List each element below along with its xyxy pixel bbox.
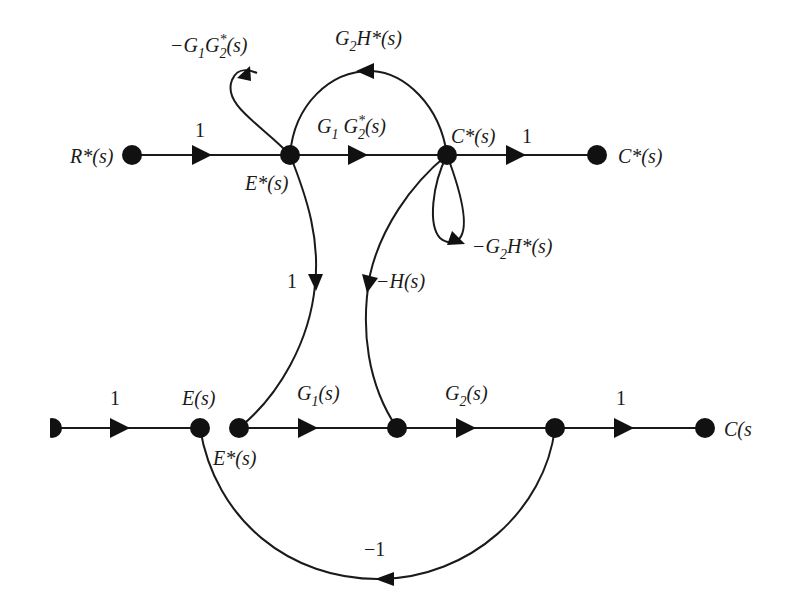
node-c-star-out [587,145,607,165]
arrow-icon [237,66,251,81]
gain-e-star-to-c-star: G1 G2*(s) [317,113,386,142]
node-n1 [387,418,407,438]
arrow-icon [456,418,476,438]
arrow-icon [356,63,374,79]
arrow-icon [298,418,318,438]
edge-c-star-to-e-star-arc [290,71,447,155]
label-e-star-bot: E*(s) [212,447,257,470]
arrow-icon [110,418,130,438]
label-c-out: C(s [724,418,752,441]
gain-r-to-e-star: 1 [195,119,205,141]
gain-input-to-e: 1 [110,387,120,409]
label-e-star-top: E*(s) [244,172,289,195]
arrow-icon [614,418,634,438]
arrow-icon [506,145,526,165]
node-e-star-bot [229,418,249,438]
edge-self-loop-c-star [433,155,464,242]
gain-n2-to-c: 1 [616,387,626,409]
label-e: E(s) [181,387,216,410]
node-input-clip [36,415,50,441]
edge-self-loop-e-star [230,70,290,155]
gain-e-star-down: 1 [287,270,297,292]
label-c-star-out: C*(s) [618,145,663,168]
gain-g1: G1(s) [297,382,340,409]
gain-feedback: −1 [364,538,385,560]
node-c [695,418,715,438]
label-r-star: R*(s) [69,145,114,168]
label-c-star-mid: C*(s) [451,125,496,148]
gain-g2: G2(s) [445,382,488,409]
arrow-icon [308,274,323,291]
arrow-icon [348,145,368,165]
gain-c-star-to-output: 1 [522,125,532,147]
node-e-star-top [280,145,300,165]
gain-self-loop-c-star: −G2H*(s) [472,235,553,262]
gain-neg-h: −H(s) [376,270,425,293]
signal-flow-graph: R*(s) E*(s) C*(s) C*(s) 1 1 −G1G2*(s) G2… [0,0,792,613]
node-c-star-mid [437,145,457,165]
diagram-svg: R*(s) E*(s) C*(s) C*(s) 1 1 −G1G2*(s) G2… [0,0,792,613]
gain-c-star-to-e-star: G2H*(s) [335,27,402,54]
gain-self-loop-e-star: −G1G2*(s) [170,32,248,61]
arrow-icon [192,145,212,165]
node-r-star [122,145,142,165]
node-e [190,418,210,438]
arrow-icon [375,572,394,586]
node-n2 [545,418,565,438]
